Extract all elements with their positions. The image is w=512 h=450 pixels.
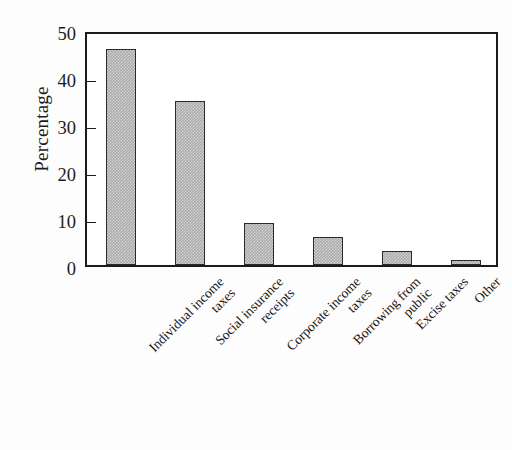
y-axis-tick [87,81,96,82]
x-axis-label: Excise taxes [413,274,472,333]
x-axis-label-line: Corporate income [284,274,364,354]
x-axis-label: Social insurancereceipts [212,274,297,359]
y-axis-tick-label: 20 [58,165,77,186]
x-axis-label-line: public [361,285,435,359]
x-axis-label: Borrowing frompublic [350,274,435,359]
y-axis-tick [87,128,96,129]
x-axis-label-line: Excise taxes [413,274,471,332]
y-axis-tick-label: 40 [58,71,77,92]
bar [106,49,136,265]
bars-group [87,34,496,265]
plot-area: 01020304050 [85,32,498,267]
y-axis-tick-label: 30 [58,118,77,139]
y-axis-tick-label: 10 [58,212,77,233]
x-axis-label: Individual incometaxes [146,274,238,366]
y-axis-tick-label: 50 [58,24,77,45]
y-axis-tick [87,222,96,223]
x-axis-label-line: Individual income [146,274,227,355]
x-axis-label-line: taxes [157,285,238,366]
y-axis-title: Percentage [31,49,53,209]
bar [244,223,274,265]
x-axis-label-line: Other [471,274,503,306]
y-axis-tick-label: 0 [67,259,76,280]
bar [451,260,481,265]
bar [175,101,205,266]
x-axis-label-line: taxes [295,285,375,365]
x-axis-label: Other [471,274,504,307]
x-axis-label-line: receipts [223,285,297,359]
x-axis-label: Corporate incometaxes [284,274,375,365]
x-axis-label-line: Borrowing from [350,274,423,347]
bar-chart-figure: Percentage 01020304050 Individual income… [0,0,512,450]
bar [313,237,343,265]
bar [382,251,412,265]
y-axis-tick [87,175,96,176]
x-axis-label-line: Social insurance [212,274,286,348]
